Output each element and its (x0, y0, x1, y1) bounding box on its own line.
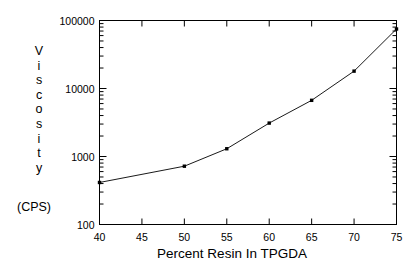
axes-frame (100, 21, 397, 225)
x-tick-label: 70 (348, 231, 360, 243)
x-tick-labels: 4045505560657075 (94, 231, 403, 243)
data-point-marker (310, 99, 313, 102)
data-markers (98, 27, 398, 184)
y-tick-label: 100 (77, 219, 95, 231)
data-series-line (100, 29, 397, 182)
data-point-marker (395, 27, 398, 30)
data-point-marker (183, 165, 186, 168)
x-tick-label: 40 (94, 231, 106, 243)
y-tick-label: 10000 (65, 83, 94, 95)
y-major-ticks (100, 21, 397, 225)
x-tick-label: 60 (263, 231, 275, 243)
x-tick-label: 75 (391, 231, 403, 243)
y-minor-ticks (100, 24, 397, 204)
x-tick-label: 65 (306, 231, 318, 243)
data-point-marker (98, 181, 101, 184)
y-tick-labels: 100100010000100000 (59, 15, 94, 231)
y-tick-label: 100000 (59, 15, 94, 27)
x-tick-label: 45 (136, 231, 148, 243)
x-tick-label: 50 (179, 231, 191, 243)
x-tick-label: 55 (221, 231, 233, 243)
axes-box (100, 21, 397, 225)
data-point-marker (268, 121, 271, 124)
plot-area: 100100010000100000 4045505560657075 (0, 0, 416, 272)
x-ticks (100, 21, 397, 225)
y-tick-label: 1000 (71, 151, 95, 163)
data-line (100, 29, 397, 182)
data-point-marker (225, 147, 228, 150)
data-point-marker (352, 69, 355, 72)
chart-figure: V i s c o s i t y (CPS) Percent Resin In… (0, 0, 416, 272)
